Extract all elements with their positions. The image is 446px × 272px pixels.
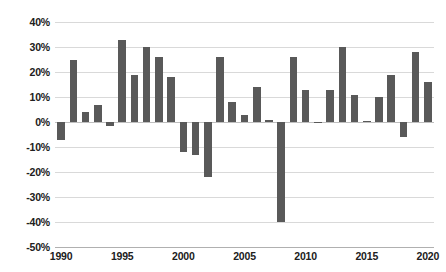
bar (106, 122, 114, 126)
y-axis-tick-label: 30% (2, 42, 50, 52)
x-axis-tick-label: 2010 (286, 250, 326, 262)
y-axis-tick-label: -30% (2, 192, 50, 202)
bar (253, 87, 261, 122)
bar (192, 122, 200, 155)
x-axis-labels: 1990199520002005201020152020 (55, 250, 434, 268)
x-axis-tick-label: 1995 (102, 250, 142, 262)
bar (57, 122, 65, 140)
x-axis-tick-label: 2000 (163, 250, 203, 262)
bar-chart: 40%30%20%10%0%-10%-20%-30%-40%-50% 19901… (0, 0, 446, 272)
bar-series (55, 22, 434, 247)
bar (167, 77, 175, 122)
y-axis-tick-label: 0% (2, 117, 50, 127)
bar (143, 47, 151, 122)
bar (216, 57, 224, 122)
bar (82, 112, 90, 122)
bar (94, 105, 102, 123)
y-axis-tick-label: -20% (2, 167, 50, 177)
bar (375, 97, 383, 122)
bar (70, 60, 78, 123)
y-axis-tick-label: 40% (2, 17, 50, 27)
bar (131, 75, 139, 123)
y-axis-tick-label: 20% (2, 67, 50, 77)
bar (326, 90, 334, 123)
bar (204, 122, 212, 177)
bar (277, 122, 285, 222)
x-axis-tick-label: 2005 (225, 250, 265, 262)
bar (302, 90, 310, 123)
bar (387, 75, 395, 123)
bar (351, 95, 359, 123)
plot-area (55, 22, 434, 247)
y-axis-labels: 40%30%20%10%0%-10%-20%-30%-40%-50% (0, 0, 50, 272)
bar (290, 57, 298, 122)
x-axis-tick-label: 2020 (408, 250, 446, 262)
bar (363, 121, 371, 122)
x-axis-tick-label: 1990 (41, 250, 81, 262)
bar (424, 82, 432, 122)
bar (118, 40, 126, 123)
gridline--50 (55, 247, 434, 248)
bar (155, 57, 163, 122)
bar (412, 52, 420, 122)
bar (228, 102, 236, 122)
bar (314, 122, 322, 123)
x-axis-tick-label: 2015 (347, 250, 387, 262)
y-axis-tick-label: -10% (2, 142, 50, 152)
bar (400, 122, 408, 137)
bar (339, 47, 347, 122)
bar (180, 122, 188, 152)
bar (265, 120, 273, 123)
bar (241, 115, 249, 123)
y-axis-tick-label: -40% (2, 217, 50, 227)
y-axis-tick-label: 10% (2, 92, 50, 102)
